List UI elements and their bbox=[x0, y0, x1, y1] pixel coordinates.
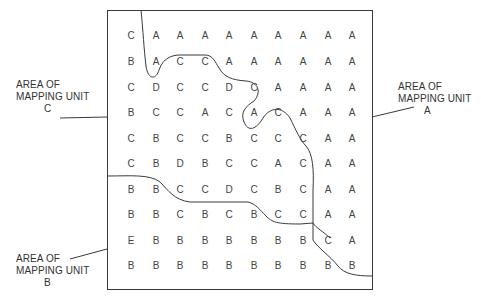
grid-cell: C bbox=[293, 133, 313, 145]
grid-cell: B bbox=[146, 133, 166, 145]
grid-cell: B bbox=[268, 235, 288, 247]
grid-cell: A bbox=[146, 30, 166, 42]
grid-cell: B bbox=[170, 260, 190, 272]
grid-cell: C bbox=[146, 107, 166, 119]
grid-cell: C bbox=[219, 209, 239, 221]
grid-cell: A bbox=[342, 56, 362, 68]
grid-cell: C bbox=[293, 209, 313, 221]
grid-cell: C bbox=[293, 158, 313, 170]
label-a-line3: A bbox=[398, 105, 471, 117]
grid-cell: B bbox=[121, 56, 141, 68]
grid-cell: C bbox=[268, 209, 288, 221]
label-mapping-unit-a: AREA OF MAPPING UNIT A bbox=[398, 81, 471, 117]
grid-cell: C bbox=[318, 235, 338, 247]
grid-cell: C bbox=[244, 82, 264, 94]
grid-cell: B bbox=[195, 158, 215, 170]
mapping-unit-diagram: AREA OF MAPPING UNIT C AREA OF MAPPING U… bbox=[0, 0, 481, 301]
grid-cell: A bbox=[342, 133, 362, 145]
grid-cell: A bbox=[268, 30, 288, 42]
label-c-line3: C bbox=[16, 103, 89, 115]
grid-cell: C bbox=[268, 133, 288, 145]
grid-cell: B bbox=[293, 235, 313, 247]
grid-cell: C bbox=[170, 184, 190, 196]
grid-cell: A bbox=[342, 235, 362, 247]
grid-cell: E bbox=[121, 235, 141, 247]
grid-cell: B bbox=[146, 235, 166, 247]
grid-cell: B bbox=[170, 235, 190, 247]
grid-cell: A bbox=[318, 30, 338, 42]
grid-cell: B bbox=[146, 158, 166, 170]
grid-cell: B bbox=[244, 209, 264, 221]
grid-cell: C bbox=[293, 184, 313, 196]
grid-cell: A bbox=[318, 133, 338, 145]
grid-cell: A bbox=[318, 209, 338, 221]
grid-cell: A bbox=[318, 82, 338, 94]
grid-cell: B bbox=[342, 260, 362, 272]
label-a-line1: AREA OF bbox=[398, 81, 471, 93]
leader-line-unit-c bbox=[60, 117, 107, 118]
grid-cell: B bbox=[268, 260, 288, 272]
grid-cell: A bbox=[342, 184, 362, 196]
grid-cell: A bbox=[293, 30, 313, 42]
grid-cell: C bbox=[121, 158, 141, 170]
grid-cell: C bbox=[244, 184, 264, 196]
grid-cell: C bbox=[170, 107, 190, 119]
grid-cell: A bbox=[244, 30, 264, 42]
grid-cell: A bbox=[318, 184, 338, 196]
grid-cell: A bbox=[268, 82, 288, 94]
grid-cell: B bbox=[318, 260, 338, 272]
grid-cell: B bbox=[219, 133, 239, 145]
grid-cell: A bbox=[268, 56, 288, 68]
grid-cell: C bbox=[170, 56, 190, 68]
grid-cell: B bbox=[268, 184, 288, 196]
grid-cell: B bbox=[244, 260, 264, 272]
label-b-line3: B bbox=[16, 277, 89, 289]
grid-cell: A bbox=[195, 30, 215, 42]
label-c-line2: MAPPING UNIT bbox=[16, 91, 89, 103]
grid-cell: A bbox=[293, 107, 313, 119]
grid-cell: B bbox=[146, 209, 166, 221]
grid-cell: A bbox=[293, 82, 313, 94]
grid-cell: D bbox=[146, 82, 166, 94]
grid-cell: A bbox=[195, 107, 215, 119]
grid-cell: C bbox=[121, 82, 141, 94]
grid-cell: C bbox=[121, 133, 141, 145]
grid-cell: B bbox=[293, 260, 313, 272]
grid-cell: B bbox=[121, 107, 141, 119]
grid-cell: C bbox=[268, 107, 288, 119]
grid-cell: B bbox=[219, 235, 239, 247]
grid-cell: C bbox=[121, 30, 141, 42]
grid-cell: A bbox=[170, 30, 190, 42]
grid-cell: B bbox=[146, 184, 166, 196]
grid-cell: A bbox=[342, 107, 362, 119]
grid-cell: A bbox=[318, 56, 338, 68]
grid-cell: B bbox=[195, 209, 215, 221]
grid-cell: A bbox=[318, 158, 338, 170]
grid-cell: C bbox=[170, 209, 190, 221]
grid-cell: B bbox=[121, 209, 141, 221]
grid-cell: A bbox=[293, 56, 313, 68]
grid-cell: A bbox=[244, 107, 264, 119]
grid-cell: A bbox=[244, 56, 264, 68]
grid-cell: A bbox=[219, 56, 239, 68]
grid-cell: C bbox=[195, 184, 215, 196]
grid-cell: C bbox=[195, 56, 215, 68]
grid-cell: B bbox=[195, 260, 215, 272]
label-a-line2: MAPPING UNIT bbox=[398, 93, 471, 105]
label-mapping-unit-b: AREA OF MAPPING UNIT B bbox=[16, 253, 89, 289]
grid-cell: A bbox=[342, 209, 362, 221]
grid-cell: C bbox=[219, 107, 239, 119]
grid-cell: C bbox=[244, 133, 264, 145]
grid-cell: A bbox=[146, 56, 166, 68]
grid-cell: C bbox=[195, 82, 215, 94]
grid-cell: C bbox=[219, 158, 239, 170]
grid-cell: A bbox=[342, 82, 362, 94]
map-boundary-box bbox=[108, 11, 373, 290]
grid-cell: C bbox=[170, 82, 190, 94]
grid-cell: B bbox=[219, 260, 239, 272]
grid-cell: C bbox=[195, 133, 215, 145]
label-mapping-unit-c: AREA OF MAPPING UNIT C bbox=[16, 79, 89, 115]
grid-cell: B bbox=[146, 260, 166, 272]
grid-cell: B bbox=[195, 235, 215, 247]
grid-cell: A bbox=[219, 30, 239, 42]
